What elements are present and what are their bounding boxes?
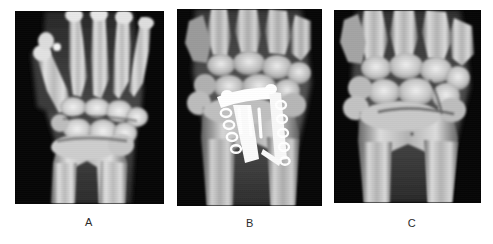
figure-container: A B C bbox=[0, 0, 493, 244]
panel-label-b: B bbox=[230, 217, 270, 229]
radiograph-image-c bbox=[334, 10, 481, 203]
radiograph-panel-b bbox=[177, 9, 322, 206]
panel-label-a: A bbox=[69, 216, 109, 228]
radiograph-image-a bbox=[15, 11, 164, 204]
radiograph-panel-c bbox=[334, 10, 481, 203]
panel-label-c: C bbox=[392, 217, 432, 229]
radiograph-image-b bbox=[177, 9, 322, 206]
radiograph-panel-a bbox=[15, 11, 164, 204]
